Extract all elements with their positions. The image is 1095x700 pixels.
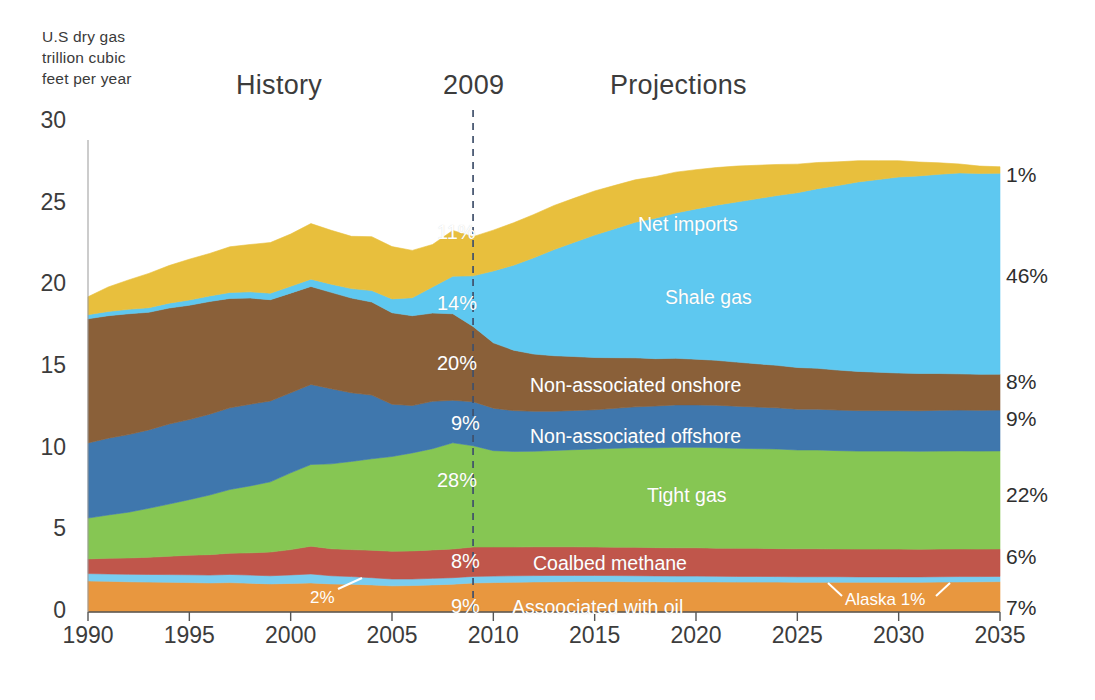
inner-share-label-1: 14% (437, 292, 477, 315)
x-tick-label-2025: 2025 (751, 622, 843, 649)
y-tick-label-15: 15 (20, 352, 66, 379)
x-tick-label-2000: 2000 (245, 622, 337, 649)
series-label-non-associated-onshore: Non-associated onshore (530, 374, 741, 397)
inner-share-label-6: 9% (451, 595, 480, 618)
stacked-area-chart (0, 0, 1095, 700)
chart-figure: U.S dry gas trillion cubic feet per year… (0, 0, 1095, 700)
right-share-label-2: 8% (1006, 370, 1036, 394)
right-share-label-0: 1% (1006, 163, 1036, 187)
y-tick-label-30: 30 (20, 107, 66, 134)
callout-label-alaska-1-: Alaska 1% (845, 590, 925, 610)
right-share-label-1: 46% (1006, 264, 1048, 288)
right-share-label-6: 7% (1006, 596, 1036, 620)
y-tick-label-20: 20 (20, 270, 66, 297)
x-tick-label-2010: 2010 (447, 622, 539, 649)
right-share-label-5: 6% (1006, 545, 1036, 569)
x-tick-label-2005: 2005 (346, 622, 438, 649)
y-tick-label-0: 0 (20, 597, 66, 624)
series-label-net-imports: Net imports (638, 213, 738, 236)
inner-share-label-5: 8% (451, 550, 480, 573)
series-label-assoociated-with-oil: Assoociated with oil (512, 596, 683, 619)
inner-share-label-4: 28% (437, 469, 477, 492)
x-tick-label-1990: 1990 (42, 622, 134, 649)
right-share-label-4: 22% (1006, 483, 1048, 507)
callout-label-2-: 2% (310, 588, 335, 608)
inner-share-label-3: 9% (451, 412, 480, 435)
y-tick-label-10: 10 (20, 434, 66, 461)
x-tick-label-1995: 1995 (143, 622, 235, 649)
x-tick-label-2020: 2020 (650, 622, 742, 649)
series-label-coalbed-methane: Coalbed methane (533, 552, 687, 575)
y-tick-label-25: 25 (20, 189, 66, 216)
x-tick-label-2015: 2015 (549, 622, 641, 649)
x-tick-label-2030: 2030 (853, 622, 945, 649)
series-label-non-associated-offshore: Non-associated offshore (530, 425, 741, 448)
series-label-shale-gas: Shale gas (665, 286, 752, 309)
series-label-tight-gas: Tight gas (647, 484, 727, 507)
inner-share-label-0: 11% (437, 221, 476, 244)
y-tick-label-5: 5 (20, 515, 66, 542)
right-share-label-3: 9% (1006, 407, 1036, 431)
x-tick-label-2035: 2035 (954, 622, 1046, 649)
inner-share-label-2: 20% (437, 352, 477, 375)
